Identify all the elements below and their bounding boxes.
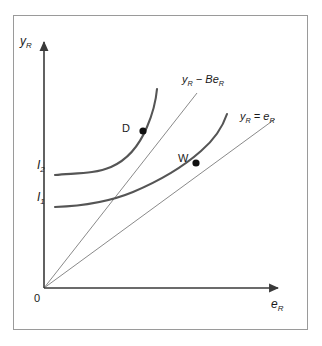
point-d-label: D: [122, 122, 130, 134]
axis-group: [44, 42, 278, 288]
indifference-curve-1-label: I1: [37, 190, 45, 204]
budget-line: [44, 93, 197, 288]
point-w-label: W: [178, 152, 188, 164]
y-axis-label: yR: [20, 34, 32, 48]
top-bleed-text: [14, 0, 164, 8]
indifference-curve-2-label: I2: [37, 158, 45, 172]
budget-line-label: yR − BeR: [182, 73, 224, 85]
origin-label: 0: [34, 292, 40, 304]
point-d-marker: [139, 127, 146, 134]
x-axis-label: eR: [271, 297, 283, 311]
indifference-curve-1: [55, 114, 227, 207]
income-line-label: yR = eR: [240, 110, 275, 122]
plot-canvas: [13, 15, 308, 330]
point-w-marker: [192, 159, 199, 166]
figure-root: yR eR 0 I2 I1 D W yR − BeR yR = eR: [0, 0, 322, 346]
ray-group: [44, 93, 275, 288]
income-line: [44, 119, 275, 288]
